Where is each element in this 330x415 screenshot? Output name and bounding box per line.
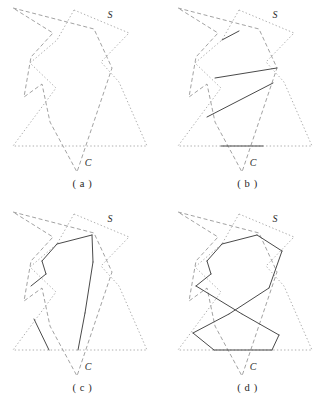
solid-edge <box>85 262 93 313</box>
panel-c-diagram: SC <box>0 204 165 389</box>
solid-edges-group <box>31 235 93 350</box>
solid-edge <box>207 83 273 117</box>
solid-edge <box>78 313 85 350</box>
label-polygon-c: C <box>85 361 92 372</box>
label-polygon-c: C <box>250 361 257 372</box>
label-polygon-c: C <box>85 157 92 168</box>
solid-edge <box>193 333 214 350</box>
solid-edge <box>229 288 269 314</box>
solid-edges-group <box>193 235 282 350</box>
polygon-c-dashed <box>178 212 277 376</box>
solid-edge <box>207 261 211 274</box>
label-polygon-s: S <box>108 213 113 224</box>
panel-a-diagram: SC <box>0 0 165 185</box>
solid-edge <box>272 335 279 350</box>
figure-root: SC ( a ) SC ( b ) SC ( c ) SC ( d ) <box>0 0 330 415</box>
solid-edge <box>207 244 222 261</box>
panel-b-caption: ( b ) <box>165 178 330 189</box>
polygon-s-dotted <box>178 214 312 350</box>
solid-edge <box>242 314 279 335</box>
panel-a: SC ( a ) <box>0 0 165 207</box>
solid-edge <box>92 235 93 262</box>
label-polygon-c: C <box>250 157 257 168</box>
label-polygon-s: S <box>108 9 113 20</box>
polygon-c-dashed <box>178 8 277 172</box>
panel-d-caption: ( d ) <box>165 382 330 393</box>
panel-c-caption: ( c ) <box>0 382 165 393</box>
solid-edge <box>257 235 282 251</box>
solid-edge <box>196 274 211 286</box>
label-polygon-s: S <box>273 213 278 224</box>
solid-edge <box>42 244 57 261</box>
panel-d-diagram: SC <box>165 204 330 389</box>
panel-a-caption: ( a ) <box>0 178 165 189</box>
polygon-c-dashed <box>13 212 112 376</box>
solid-edge <box>42 261 46 274</box>
solid-edge <box>222 235 257 244</box>
panel-d: SC ( d ) <box>165 204 330 411</box>
polygon-s-dotted <box>178 10 312 146</box>
panel-b-diagram: SC <box>165 0 330 185</box>
polygon-c-dashed <box>13 8 112 172</box>
solid-edge <box>31 274 46 286</box>
label-polygon-s: S <box>273 9 278 20</box>
polygon-s-dotted <box>13 10 147 146</box>
solid-edge <box>215 68 277 78</box>
solid-edge <box>34 319 49 350</box>
solid-edges-group <box>207 31 277 146</box>
panel-b: SC ( b ) <box>165 0 330 207</box>
solid-edge <box>193 314 229 333</box>
polygon-s-dotted <box>13 214 147 350</box>
panel-c: SC ( c ) <box>0 204 165 411</box>
solid-edge <box>57 235 92 244</box>
